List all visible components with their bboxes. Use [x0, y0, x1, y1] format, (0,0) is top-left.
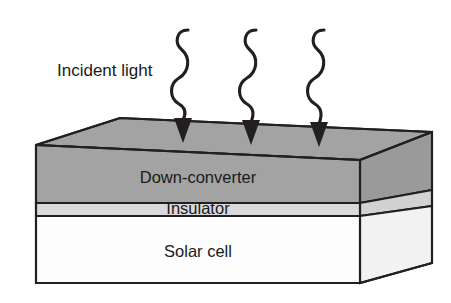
ray-2-wave — [240, 30, 257, 122]
layer-stack-3d — [36, 118, 432, 283]
figure-root: Down-converter Insulator Solar cell Inci… — [0, 0, 451, 303]
schematic-svg: Down-converter Insulator Solar cell Inci… — [0, 0, 451, 303]
side-face-solar-cell — [360, 206, 432, 283]
label-down-converter: Down-converter — [140, 168, 257, 186]
ray-3-wave — [308, 30, 325, 124]
label-insulator: Insulator — [166, 199, 230, 217]
label-solar-cell: Solar cell — [164, 242, 232, 260]
label-incident-light: Incident light — [57, 61, 153, 80]
ray-1-wave — [172, 30, 189, 120]
